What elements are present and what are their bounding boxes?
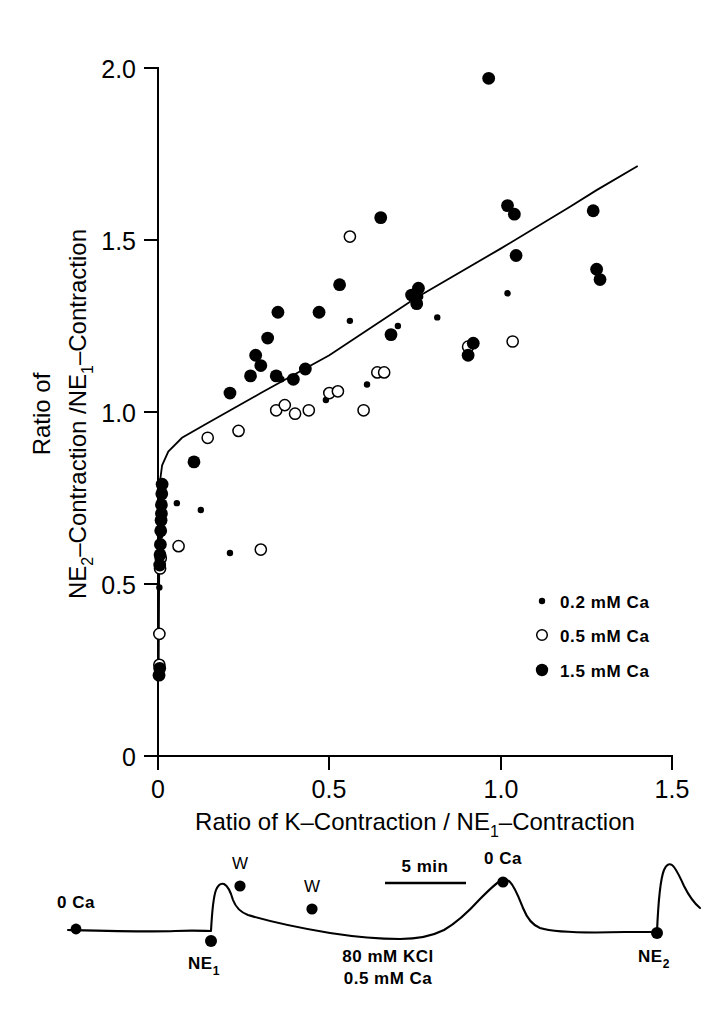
trace-label-ne2-main: NE — [638, 947, 663, 966]
svg-text:NE2–Contraction /NE1–Contracti: NE2–Contraction /NE1–Contraction — [64, 229, 96, 599]
x-tick-label-1-0: 1.0 — [484, 775, 519, 803]
data-point — [385, 328, 398, 341]
data-point — [510, 249, 523, 262]
legend-label-0: 0.2 mM Ca — [560, 593, 650, 612]
data-point — [332, 386, 343, 397]
data-point — [224, 387, 237, 400]
trace-label-ne2-sub: 2 — [663, 957, 670, 971]
x-axis-title: Ratio of K–Contraction / NE1–Contraction — [195, 808, 635, 840]
data-point — [504, 290, 510, 296]
data-point — [462, 349, 475, 362]
legend: 0.2 mM Ca 0.5 mM Ca 1.5 mM Ca — [536, 593, 650, 681]
x-axis-title-post: –Contraction — [499, 808, 635, 835]
data-point — [508, 208, 521, 221]
data-point — [587, 204, 600, 217]
x-axis-title-pre: Ratio of K–Contraction / NE — [195, 808, 490, 835]
data-point — [333, 278, 346, 291]
data-point — [358, 405, 369, 416]
data-point — [364, 381, 370, 387]
figure-svg: 2.0 1.5 1.0 0.5 0 0 0.5 1.0 1.5 Ratio of… — [0, 0, 728, 1034]
svg-text:NE1: NE1 — [188, 954, 220, 978]
data-point — [347, 318, 353, 324]
y-tick-label-0-5: 0.5 — [101, 571, 136, 599]
y-tick-label-1-5: 1.5 — [101, 227, 136, 255]
data-point — [395, 323, 401, 329]
data-point — [289, 408, 300, 419]
trace-label-kcl-line1: 80 mM KCl — [342, 947, 433, 966]
data-point — [227, 550, 233, 556]
data-point — [482, 72, 495, 85]
series-points-0-5-mM-Ca — [154, 231, 518, 670]
data-point — [279, 400, 290, 411]
data-point — [156, 584, 162, 590]
data-point — [154, 628, 165, 639]
data-point — [410, 297, 423, 310]
trace-label-kcl-line2: 0.5 mM Ca — [344, 969, 433, 988]
data-point — [261, 332, 274, 345]
y-tick-label-2-0: 2.0 — [101, 55, 136, 83]
data-point — [198, 507, 204, 513]
trace-marker-ne1 — [205, 935, 217, 947]
y-tick-labels: 2.0 1.5 1.0 0.5 0 — [101, 55, 136, 771]
y-axis-title-sub1: 2 — [79, 557, 96, 566]
x-tick-label-0-5: 0.5 — [312, 775, 347, 803]
data-point — [154, 538, 167, 551]
x-tick-labels: 0 0.5 1.0 1.5 — [151, 775, 689, 803]
y-axis-title-sub2: 1 — [79, 365, 96, 374]
y-tick-label-0: 0 — [122, 743, 136, 771]
trace-label-wash-1: W — [232, 854, 248, 873]
data-point — [174, 500, 180, 506]
figure-root: 2.0 1.5 1.0 0.5 0 0 0.5 1.0 1.5 Ratio of… — [0, 0, 728, 1034]
data-point — [594, 273, 607, 286]
trace-label-ne1-main: NE — [188, 954, 213, 973]
data-point — [507, 336, 518, 347]
trace-marker-zero-ca-start — [71, 924, 82, 935]
data-point — [153, 662, 166, 675]
x-axis-title-sub: 1 — [490, 823, 499, 840]
legend-label-1: 0.5 mM Ca — [560, 627, 650, 646]
data-point — [155, 498, 168, 511]
legend-marker-small-filled-circle-icon — [539, 598, 545, 604]
data-point — [374, 211, 387, 224]
data-point — [303, 405, 314, 416]
trace-label-wash-2: W — [304, 877, 320, 896]
data-point — [244, 369, 257, 382]
y-axis-title: Ratio of NE2–Contraction /NE1–Contractio… — [28, 229, 96, 599]
svg-text:NE2: NE2 — [638, 947, 670, 971]
trace-label-zero-ca-peak: 0 Ca — [484, 849, 522, 868]
data-point — [173, 541, 184, 552]
data-point — [434, 314, 440, 320]
data-point — [344, 231, 355, 242]
y-axis-title-line1: Ratio of — [28, 372, 55, 455]
regression-fit-line — [159, 166, 638, 663]
trace-marker-zero-ca-peak — [497, 876, 508, 887]
data-point — [287, 373, 300, 386]
data-point — [272, 306, 285, 319]
data-point — [313, 306, 326, 319]
data-point — [255, 544, 266, 555]
trace-panel: 0 Ca NE1 W W 5 min 80 mM KCl 0.5 mM Ca 0… — [57, 849, 700, 988]
data-point — [379, 367, 390, 378]
data-point — [233, 425, 244, 436]
contraction-trace-line — [68, 864, 700, 939]
y-tick-label-1-0: 1.0 — [101, 399, 136, 427]
svg-text:Ratio of K–Contraction / NE1–C: Ratio of K–Contraction / NE1–Contraction — [195, 808, 635, 840]
legend-marker-open-circle-icon — [537, 630, 548, 641]
trace-label-zero-ca-start: 0 Ca — [57, 893, 95, 912]
trace-marker-wash-1 — [234, 880, 245, 891]
scalebar-label: 5 min — [402, 857, 449, 876]
x-tick-label-0: 0 — [151, 775, 165, 803]
trace-marker-wash-2 — [306, 903, 317, 914]
y-axis-title-post: –Contraction — [64, 229, 91, 365]
trace-label-ne1-sub: 1 — [213, 964, 220, 978]
legend-label-2: 1.5 mM Ca — [560, 662, 650, 681]
data-point — [467, 337, 480, 350]
data-point — [156, 478, 169, 491]
x-tick-label-1-5: 1.5 — [655, 775, 690, 803]
data-point — [412, 282, 425, 295]
data-point — [299, 363, 312, 376]
trace-marker-ne2 — [651, 927, 663, 939]
data-point — [202, 432, 213, 443]
data-point — [254, 359, 267, 372]
legend-marker-large-filled-circle-icon — [536, 664, 548, 676]
